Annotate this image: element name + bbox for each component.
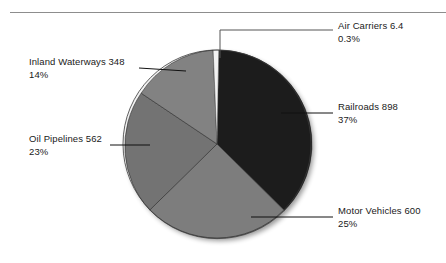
slice-label-oil-pipelines-name: Oil Pipelines 562 [29, 133, 102, 146]
slice-label-air-carriers-name: Air Carriers 6.4 [338, 20, 403, 33]
slice-label-motor-vehicles-percent: 25% [338, 218, 421, 231]
slice-label-air-carriers-percent: 0.3% [338, 33, 403, 46]
slice-label-motor-vehicles-name: Motor Vehicles 600 [338, 205, 421, 218]
slice-label-oil-pipelines: Oil Pipelines 562 23% [29, 133, 102, 158]
slice-label-inland-waterways: Inland Waterways 348 14% [29, 56, 125, 81]
slice-label-railroads-name: Railroads 898 [338, 101, 398, 114]
slice-label-railroads-percent: 37% [338, 114, 398, 127]
slice-label-inland-waterways-percent: 14% [29, 69, 125, 82]
pie-chart-figure: Air Carriers 6.4 0.3% Railroads 898 37% … [0, 0, 446, 263]
slice-label-railroads: Railroads 898 37% [338, 101, 398, 126]
slice-label-motor-vehicles: Motor Vehicles 600 25% [338, 205, 421, 230]
slice-label-air-carriers: Air Carriers 6.4 0.3% [338, 20, 403, 45]
slice-label-oil-pipelines-percent: 23% [29, 146, 102, 159]
slice-label-inland-waterways-name: Inland Waterways 348 [29, 56, 125, 69]
